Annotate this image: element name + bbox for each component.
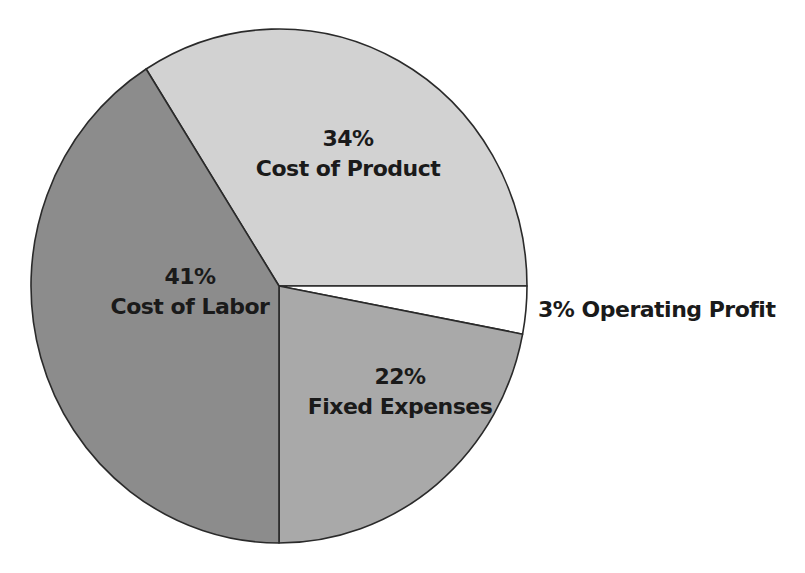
label-cost-of-product-name: Cost of Product xyxy=(248,154,448,184)
label-cost-of-labor: 41% Cost of Labor xyxy=(100,262,280,322)
label-cost-of-labor-name: Cost of Labor xyxy=(100,292,280,322)
label-cost-of-product-percent: 34% xyxy=(248,124,448,154)
label-operating-profit: 3% Operating Profit xyxy=(538,295,775,325)
label-fixed-expenses-name: Fixed Expenses xyxy=(300,392,500,422)
label-fixed-expenses: 22% Fixed Expenses xyxy=(300,362,500,422)
label-cost-of-product: 34% Cost of Product xyxy=(248,124,448,184)
label-cost-of-labor-percent: 41% xyxy=(100,262,280,292)
label-fixed-expenses-percent: 22% xyxy=(300,362,500,392)
label-operating-profit-text: 3% Operating Profit xyxy=(538,295,775,325)
